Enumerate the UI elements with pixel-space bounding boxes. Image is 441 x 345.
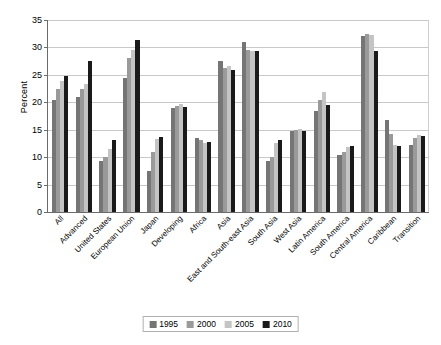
bar bbox=[255, 51, 259, 212]
bar-group bbox=[143, 20, 167, 212]
bar bbox=[397, 146, 401, 212]
bar bbox=[302, 131, 306, 212]
bar-group bbox=[72, 20, 96, 212]
bar-group bbox=[48, 20, 72, 212]
y-tick-label: 10 bbox=[18, 152, 42, 162]
legend-swatch-icon bbox=[225, 321, 232, 328]
bar-group bbox=[215, 20, 239, 212]
legend-label: 1995 bbox=[159, 319, 178, 329]
bar-groups bbox=[48, 20, 429, 212]
legend-swatch-icon bbox=[187, 321, 194, 328]
legend-item[interactable]: 1995 bbox=[149, 319, 178, 329]
bar-group bbox=[96, 20, 120, 212]
bar bbox=[350, 146, 354, 212]
legend-label: 2000 bbox=[197, 319, 216, 329]
bar-group bbox=[191, 20, 215, 212]
legend-item[interactable]: 2010 bbox=[263, 319, 292, 329]
bar bbox=[207, 142, 211, 212]
legend-label: 2005 bbox=[235, 319, 254, 329]
bar-group bbox=[334, 20, 358, 212]
bar bbox=[326, 105, 330, 212]
x-tick-label: All bbox=[0, 214, 65, 345]
bar-chart: Percent 05101520253035 AllAdvancedUnited… bbox=[0, 0, 441, 345]
y-tick-label: 0 bbox=[18, 207, 42, 217]
bar bbox=[135, 40, 139, 212]
plot-area: 05101520253035 bbox=[47, 20, 429, 213]
bar-group bbox=[405, 20, 429, 212]
y-tick-label: 30 bbox=[18, 42, 42, 52]
chart-legend: 1995200020052010 bbox=[142, 316, 299, 332]
y-tick-label: 5 bbox=[18, 180, 42, 190]
bar bbox=[374, 51, 378, 212]
x-axis-labels: AllAdvancedUnited StatesEuropean UnionJa… bbox=[47, 214, 428, 304]
bar-group bbox=[239, 20, 263, 212]
bar-group bbox=[262, 20, 286, 212]
legend-swatch-icon bbox=[263, 321, 270, 328]
legend-item[interactable]: 2005 bbox=[225, 319, 254, 329]
bar-group bbox=[167, 20, 191, 212]
bar bbox=[421, 136, 425, 212]
bar-group bbox=[286, 20, 310, 212]
legend-label: 2010 bbox=[273, 319, 292, 329]
y-tick-label: 20 bbox=[18, 97, 42, 107]
legend-item[interactable]: 2000 bbox=[187, 319, 216, 329]
bar bbox=[112, 140, 116, 212]
legend-swatch-icon bbox=[149, 321, 156, 328]
y-tick-label: 25 bbox=[18, 70, 42, 80]
bar-group bbox=[119, 20, 143, 212]
y-tick-label: 15 bbox=[18, 125, 42, 135]
bar-group bbox=[381, 20, 405, 212]
bar bbox=[231, 70, 235, 212]
y-tick-mark bbox=[44, 212, 48, 213]
bar-group bbox=[310, 20, 334, 212]
bar-group bbox=[358, 20, 382, 212]
y-tick-label: 35 bbox=[18, 15, 42, 25]
bar bbox=[278, 140, 282, 212]
bar bbox=[159, 137, 163, 212]
bar bbox=[183, 107, 187, 212]
bar bbox=[88, 61, 92, 212]
bar bbox=[64, 76, 68, 212]
